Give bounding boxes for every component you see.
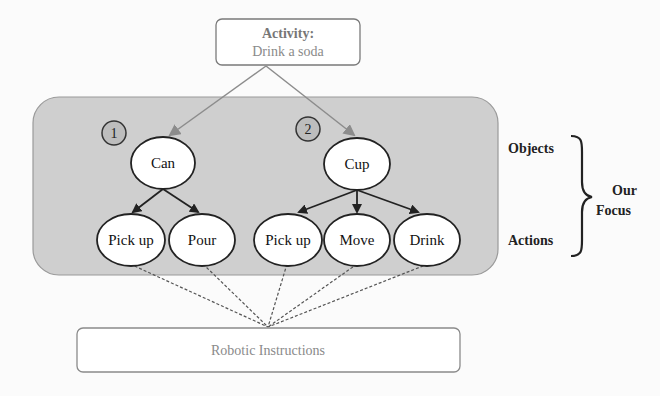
robotic-instructions-label: Robotic Instructions [211, 343, 325, 358]
action-label: Drink [410, 232, 445, 248]
diagram-canvas: Activity: Drink a soda 1 2 Can Cup Pick … [0, 0, 660, 396]
curly-brace [571, 136, 592, 256]
object-label-cup: Cup [344, 156, 369, 172]
action-label: Pick up [265, 232, 310, 248]
object-label-can: Can [151, 155, 176, 171]
action-label: Move [340, 232, 375, 248]
activity-value: Drink a soda [252, 44, 324, 59]
activity-title: Activity: [262, 26, 314, 41]
focus-label-line1: Our [612, 183, 637, 198]
objects-label: Objects [508, 141, 554, 156]
action-label: Pick up [108, 232, 153, 248]
actions-label: Actions [508, 233, 554, 248]
group-1-number: 1 [111, 126, 118, 141]
focus-label-line2: Focus [596, 203, 632, 218]
action-label: Pour [188, 232, 216, 248]
group-2-number: 2 [305, 122, 312, 137]
